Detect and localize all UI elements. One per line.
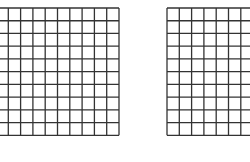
left-grid [0,7,120,136]
right-grid [166,7,250,136]
grid-lines [166,7,250,136]
grid-lines [0,7,120,136]
